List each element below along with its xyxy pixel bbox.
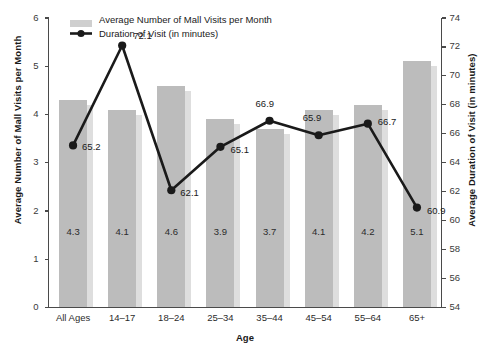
legend-label-line: Duration of Visit (in minutes) <box>99 28 218 39</box>
legend-line-marker-icon <box>0 0 504 356</box>
chart-figure: Average Number of Mall Visits per Month … <box>0 0 504 356</box>
